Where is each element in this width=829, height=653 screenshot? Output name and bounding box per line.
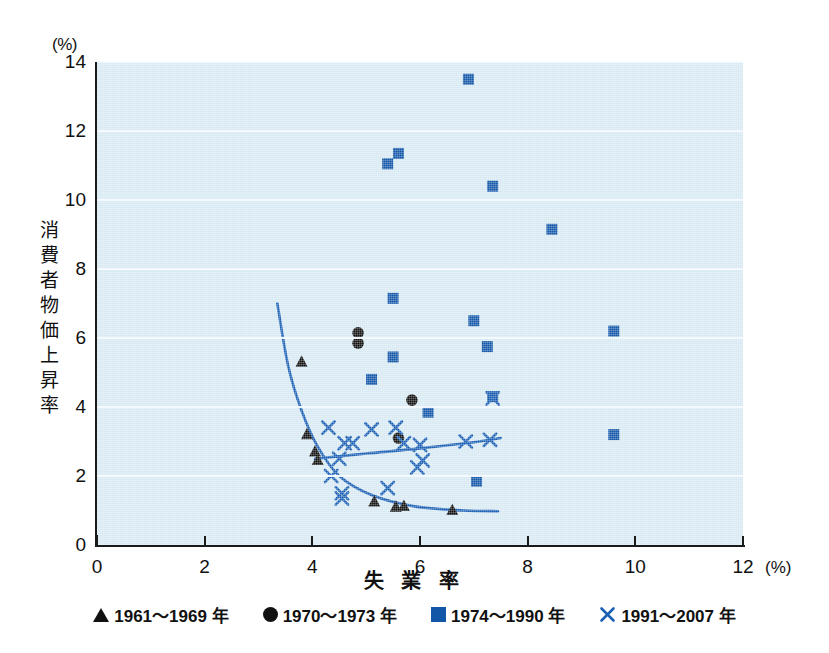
data-point-circle: [352, 337, 364, 349]
data-point-square: [487, 181, 498, 192]
y-tick-label: 2: [40, 466, 86, 485]
data-point-square: [471, 476, 482, 487]
data-point-square: [482, 341, 493, 352]
gridline: [97, 199, 743, 201]
y-tick-label: 10: [40, 190, 86, 209]
x-tick-mark: [311, 536, 313, 545]
scatter-chart: (%) 消費者物価上昇率 02468101214 024681012(%) 失 …: [0, 0, 829, 653]
data-point-square: [366, 374, 377, 385]
x-tick-mark: [634, 536, 636, 545]
y-axis-title-char: 消: [36, 218, 62, 243]
y-tick-label: 6: [40, 328, 86, 347]
y-axis-title-char: 昇: [36, 368, 62, 393]
gridline: [97, 61, 743, 63]
data-point-square: [388, 293, 399, 304]
legend-item-3[interactable]: 1974～1990 年: [431, 602, 565, 627]
x-tick-mark: [204, 536, 206, 545]
data-point-circle: [406, 394, 418, 406]
legend-square-icon: [431, 607, 446, 622]
x-axis-line: [95, 545, 745, 547]
legend-item-label: 1991～2007 年: [619, 602, 735, 627]
y-tick-label: 4: [40, 397, 86, 416]
data-point-cross: [382, 482, 394, 494]
data-series-layer: [97, 62, 743, 545]
data-point-square: [546, 224, 557, 235]
data-point-cross: [390, 422, 402, 434]
data-point-square: [423, 407, 434, 418]
y-tick-label: 0: [40, 535, 86, 554]
legend-item-4[interactable]: 1991～2007 年: [599, 602, 735, 627]
data-point-triangle: [296, 355, 308, 366]
gridline: [97, 268, 743, 270]
gridline: [97, 475, 743, 477]
data-point-cross: [365, 423, 377, 435]
data-point-square: [608, 326, 619, 337]
legend-cross-icon: [599, 606, 616, 623]
x-axis-title: 失 業 率: [0, 565, 829, 594]
data-point-cross: [322, 422, 334, 434]
legend-circle-icon: [263, 607, 278, 622]
data-point-square: [382, 158, 393, 169]
legend-item-label: 1961～1969 年: [112, 602, 228, 627]
series-2: [352, 327, 417, 444]
legend-item-1[interactable]: 1961～1969 年: [93, 602, 228, 627]
data-point-cross: [347, 437, 359, 449]
gridline: [97, 337, 743, 339]
y-axis-title: 消費者物価上昇率: [36, 218, 62, 418]
y-tick-label: 8: [40, 259, 86, 278]
series-4: [322, 392, 499, 504]
x-tick-mark: [742, 536, 744, 545]
data-point-square: [393, 148, 404, 159]
legend-item-2[interactable]: 1970～1973 年: [263, 602, 397, 627]
gridline: [97, 406, 743, 408]
data-point-square: [608, 429, 619, 440]
y-axis-line: [95, 62, 97, 547]
legend-triangle-icon: [93, 608, 109, 622]
data-point-square: [388, 351, 399, 362]
series-3: [366, 74, 619, 487]
y-tick-label: 14: [40, 52, 86, 71]
y-tick-label: 12: [40, 121, 86, 140]
data-point-cross: [416, 454, 428, 466]
legend-item-label: 1974～1990 年: [449, 602, 565, 627]
y-axis-title-char: 物: [36, 293, 62, 318]
data-point-cross: [333, 453, 345, 465]
x-tick-mark: [419, 536, 421, 545]
data-point-square: [463, 74, 474, 85]
legend-item-label: 1970～1973 年: [281, 602, 397, 627]
plot-area: [97, 62, 743, 545]
legend: 1961～1969 年1970～1973 年1974～1990 年1991～20…: [0, 602, 829, 627]
x-tick-mark: [527, 536, 529, 545]
data-point-square: [468, 315, 479, 326]
gridline: [97, 130, 743, 132]
